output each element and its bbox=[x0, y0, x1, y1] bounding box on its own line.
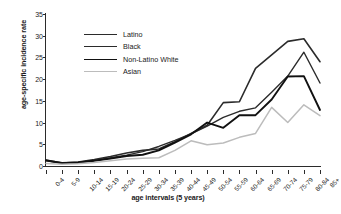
y-tick-label: 15 bbox=[35, 97, 43, 104]
x-tick-label: 35-39 bbox=[169, 176, 186, 193]
y-tick-label: 35 bbox=[35, 11, 43, 18]
y-axis-title: age-specific incidence rate bbox=[19, 0, 28, 135]
legend-item-latino: Latino bbox=[84, 28, 179, 41]
x-tick-mark bbox=[288, 170, 289, 174]
x-axis-line bbox=[45, 166, 321, 167]
legend-swatch bbox=[84, 34, 117, 35]
x-tick-mark bbox=[159, 170, 160, 174]
x-tick-mark bbox=[191, 170, 192, 174]
x-tick-mark bbox=[127, 170, 128, 174]
x-tick-mark bbox=[62, 170, 63, 174]
y-tick-label: 20 bbox=[35, 76, 43, 83]
x-tick-label: 15-19 bbox=[104, 176, 121, 193]
legend-label: Non-Latino White bbox=[123, 55, 179, 64]
y-tick-mark bbox=[43, 79, 46, 80]
x-tick-label: 60-64 bbox=[249, 176, 266, 193]
y-tick-label: 0 bbox=[39, 163, 43, 170]
legend-label: Black bbox=[123, 42, 141, 51]
x-tick-label: 20-24 bbox=[120, 176, 137, 193]
x-axis-title: age intervals (5 years) bbox=[0, 193, 336, 202]
x-tick-label: 70-74 bbox=[281, 176, 298, 193]
x-tick-mark bbox=[272, 170, 273, 174]
x-tick-label: 5-9 bbox=[70, 176, 81, 187]
y-tick-mark bbox=[43, 57, 46, 58]
x-tick-label: 50-54 bbox=[217, 176, 234, 193]
legend-swatch bbox=[84, 46, 117, 47]
x-tick-mark bbox=[239, 170, 240, 174]
y-tick-mark bbox=[43, 36, 46, 37]
legend: LatinoBlackNon-Latino WhiteAsian bbox=[84, 28, 179, 78]
series-line-non-latino-white bbox=[46, 76, 320, 163]
x-tick-mark bbox=[110, 170, 111, 174]
x-tick-label: 80-84 bbox=[314, 176, 331, 193]
x-tick-label: 85+ bbox=[328, 176, 341, 189]
y-tick-mark bbox=[43, 101, 46, 102]
legend-label: Asian bbox=[123, 67, 141, 76]
legend-label: Latino bbox=[123, 30, 143, 39]
series-line-asian bbox=[46, 105, 320, 164]
x-tick-mark bbox=[143, 170, 144, 174]
legend-item-asian: Asian bbox=[84, 66, 179, 79]
x-tick-label: 0-4 bbox=[54, 176, 65, 187]
x-tick-label: 10-14 bbox=[88, 176, 105, 193]
y-tick-mark bbox=[43, 14, 46, 15]
y-tick-label: 25 bbox=[35, 54, 43, 61]
x-tick-label: 40-44 bbox=[185, 176, 202, 193]
x-tick-mark bbox=[320, 170, 321, 174]
legend-item-non-latino-white: Non-Latino White bbox=[84, 53, 179, 66]
x-tick-label: 25-29 bbox=[136, 176, 153, 193]
x-tick-mark bbox=[94, 170, 95, 174]
x-tick-mark bbox=[175, 170, 176, 174]
x-tick-mark bbox=[46, 170, 47, 174]
x-tick-mark bbox=[223, 170, 224, 174]
y-tick-label: 30 bbox=[35, 32, 43, 39]
y-tick-label: 5 bbox=[39, 141, 43, 148]
x-tick-label: 45-49 bbox=[201, 176, 218, 193]
x-tick-label: 75-79 bbox=[298, 176, 315, 193]
legend-swatch bbox=[84, 59, 117, 60]
x-tick-mark bbox=[207, 170, 208, 174]
x-tick-mark bbox=[78, 170, 79, 174]
y-tick-label: 10 bbox=[35, 119, 43, 126]
y-tick-mark bbox=[43, 123, 46, 124]
x-tick-label: 30-34 bbox=[152, 176, 169, 193]
y-tick-mark bbox=[43, 166, 46, 167]
legend-swatch bbox=[84, 71, 117, 72]
x-tick-label: 55-59 bbox=[233, 176, 250, 193]
y-tick-mark bbox=[43, 144, 46, 145]
x-tick-label: 65-69 bbox=[265, 176, 282, 193]
x-tick-mark bbox=[256, 170, 257, 174]
x-tick-mark bbox=[304, 170, 305, 174]
legend-item-black: Black bbox=[84, 41, 179, 54]
